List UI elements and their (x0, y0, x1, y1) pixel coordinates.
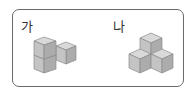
cube-stack-na (126, 32, 178, 78)
panel-label-ga: 가 (21, 20, 33, 33)
panel-label-na: 나 (113, 20, 125, 33)
cube-stack-ga (30, 36, 82, 78)
